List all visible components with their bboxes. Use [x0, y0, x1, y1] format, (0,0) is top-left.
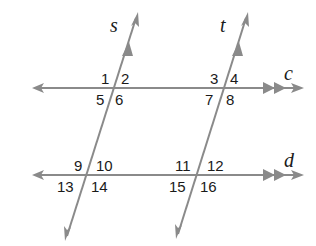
parallel-mark-c-1-icon: [263, 82, 275, 94]
angle-1: 1: [101, 70, 109, 87]
angle-5: 5: [96, 91, 104, 108]
angle-15: 15: [169, 178, 186, 195]
label-t: t: [220, 14, 226, 36]
angle-12: 12: [207, 157, 224, 174]
arrow-bottom-s-icon: [64, 226, 71, 241]
angle-6: 6: [115, 91, 123, 108]
parallel-lines-diagram: s t c d 1 2 5 6 3 4 7 8 9 10 13 14 11 12…: [0, 0, 316, 246]
angle-7: 7: [205, 91, 213, 108]
label-s: s: [110, 14, 118, 36]
angle-11: 11: [175, 157, 191, 174]
angle-3: 3: [210, 70, 218, 87]
angle-4: 4: [230, 70, 238, 87]
angle-13: 13: [57, 178, 74, 195]
parallel-mark-d-1-icon: [263, 169, 275, 181]
angle-8: 8: [226, 91, 234, 108]
label-d: d: [284, 149, 295, 171]
angle-16: 16: [200, 178, 217, 195]
label-c: c: [284, 62, 293, 84]
arrow-bottom-t-icon: [175, 224, 182, 239]
arrow-top-s-icon: [131, 12, 139, 27]
angle-9: 9: [74, 157, 82, 174]
angle-10: 10: [96, 157, 113, 174]
angle-2: 2: [121, 70, 129, 87]
arrow-top-t-icon: [241, 12, 249, 27]
angle-14: 14: [91, 178, 108, 195]
